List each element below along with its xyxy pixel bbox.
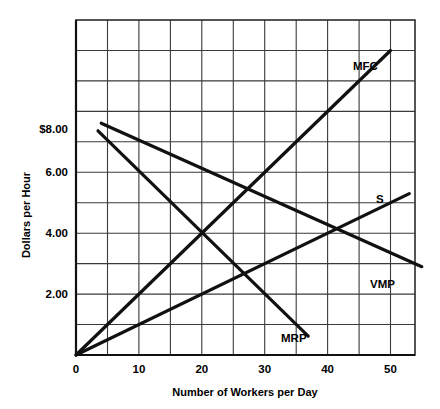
y-axis-title: Dollars per Hour <box>20 171 32 258</box>
x-tick-label-0: 0 <box>73 363 79 375</box>
x-tick-label-40: 40 <box>321 363 334 375</box>
series-label-mfc: MFC <box>353 60 378 72</box>
y-tick-label-4: 4.00 <box>46 227 68 239</box>
series-label-vmp: VMP <box>370 278 395 290</box>
series-label-mrp: MRP <box>281 332 307 344</box>
series-label-s: S <box>376 193 384 205</box>
x-tick-label-50: 50 <box>384 363 397 375</box>
y-tick-label-6: 6.00 <box>46 166 68 178</box>
labor-market-chart: MFC S VMP MRP 2.00 4.00 6.00 $8.00 0 10 … <box>0 0 440 409</box>
x-tick-label-20: 20 <box>195 363 208 375</box>
y-tick-label-8: $8.00 <box>39 123 68 135</box>
y-tick-label-2: 2.00 <box>46 288 68 300</box>
x-tick-label-10: 10 <box>133 363 146 375</box>
x-tick-label-30: 30 <box>258 363 271 375</box>
chart-canvas: MFC S VMP MRP 2.00 4.00 6.00 $8.00 0 10 … <box>0 0 440 409</box>
x-axis-title: Number of Workers per Day <box>172 386 318 398</box>
